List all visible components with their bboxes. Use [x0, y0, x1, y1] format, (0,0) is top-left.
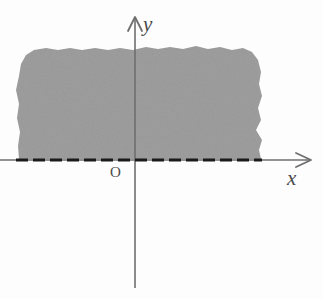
x-axis-label: x [287, 168, 296, 189]
shaded-region [16, 46, 262, 159]
figure-canvas [0, 0, 323, 299]
origin-label: O [110, 165, 121, 180]
coordinate-plane-figure: y x O [0, 0, 323, 299]
y-axis-label: y [143, 14, 152, 35]
